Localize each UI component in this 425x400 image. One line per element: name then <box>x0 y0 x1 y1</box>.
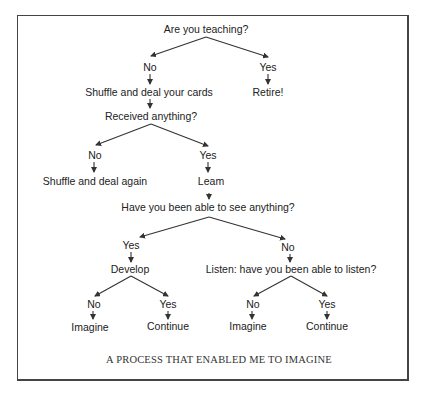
arrow-received-yes <box>151 124 208 146</box>
arrow-develop-no <box>95 276 131 296</box>
node-are-you-teaching: Are you teaching? <box>164 24 249 35</box>
node-listen-continue: Continue <box>306 321 348 332</box>
node-develop-imagine: Imagine <box>71 322 108 333</box>
arrow-see-yes <box>140 217 209 237</box>
node-listen-imagine: Imagine <box>229 321 266 332</box>
node-teaching-no: No <box>143 62 156 73</box>
arrow-teaching-yes <box>206 37 268 57</box>
node-see-yes: Yes <box>122 240 139 251</box>
node-develop-yes: Yes <box>159 299 176 310</box>
node-teaching-yes: Yes <box>259 62 276 73</box>
node-received-no: No <box>88 150 101 161</box>
node-listen-yes: Yes <box>318 299 335 310</box>
node-learn: Leam <box>198 176 224 187</box>
arrow-listen-yes <box>291 276 327 296</box>
node-see-no: No <box>281 242 294 253</box>
node-listen-no: No <box>246 299 259 310</box>
arrow-received-no <box>96 124 151 145</box>
node-received-yes: Yes <box>199 150 216 161</box>
arrow-develop-yes <box>131 276 168 296</box>
node-develop-no: No <box>87 299 100 310</box>
arrow-see-no <box>209 217 285 239</box>
node-see-anything: Have you been able to see anything? <box>121 202 294 213</box>
node-retire: Retire! <box>253 87 284 98</box>
node-shuffle-deal: Shuffle and deal your cards <box>85 87 213 98</box>
arrow-teaching-no <box>151 37 206 56</box>
diagram-caption: A PROCESS THAT ENABLED ME TO IMAGINE <box>106 354 332 365</box>
node-received-anything: Received anything? <box>105 111 197 122</box>
node-develop-continue: Continue <box>147 321 189 332</box>
node-shuffle-again: Shuffle and deal again <box>43 176 147 187</box>
node-develop: Develop <box>111 264 150 275</box>
arrow-listen-no <box>254 276 291 296</box>
node-listen: Listen: have you been able to listen? <box>206 264 376 275</box>
